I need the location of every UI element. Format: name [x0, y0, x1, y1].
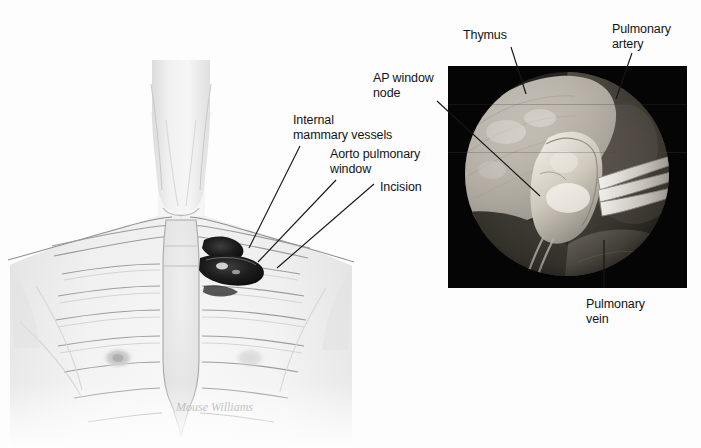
nipple-left — [102, 347, 134, 369]
label-thymus: Thymus — [463, 28, 507, 43]
medical-figure: Internal mammary vessels Aorto pulmonary… — [0, 0, 701, 448]
label-internal-mammary-vessels: Internal mammary vessels — [293, 113, 392, 142]
bottom-fade — [0, 382, 360, 448]
neck — [151, 60, 211, 216]
thoracoscopic-photo — [448, 66, 687, 288]
label-pulmonary-vein: Pulmonary vein — [586, 297, 645, 326]
label-aorto-pulmonary-window: Aorto pulmonary window — [330, 147, 420, 176]
label-ap-window-node: AP window node — [373, 71, 434, 100]
label-pulmonary-artery: Pulmonary artery — [612, 22, 671, 51]
label-incision: Incision — [380, 180, 422, 195]
artist-signature: Mouse Williams — [176, 400, 253, 415]
nipple-right — [234, 347, 266, 369]
